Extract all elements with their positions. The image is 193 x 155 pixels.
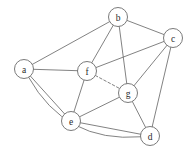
graph-edge-a-e (30, 76, 64, 114)
graph-node-label-d: d (148, 132, 153, 142)
graph-node-e: e (62, 112, 81, 131)
graph-node-f: f (78, 62, 97, 81)
graph-edge-c-f (96, 41, 164, 67)
graph-node-label-c: c (171, 34, 175, 44)
graph-node-g: g (119, 84, 138, 103)
graph-node-label-e: e (69, 117, 73, 127)
graph-edge-b-g (119, 26, 127, 83)
graph-edge-e-d (80, 123, 140, 134)
graph-edge-c-d (152, 47, 171, 127)
graph-edge-b-f (92, 25, 114, 63)
graph-figure: abcdefg (0, 0, 193, 155)
graph-edge-b-c (127, 20, 164, 34)
graph-edge-f-g (95, 75, 119, 88)
graph-node-c: c (164, 29, 183, 48)
graph-edge-e-g (80, 97, 120, 117)
graph-edge-e-f (74, 80, 84, 112)
graph-edge-a-b (32, 22, 109, 65)
graph-node-b: b (109, 8, 128, 27)
graph-canvas: abcdefg (0, 0, 193, 155)
graph-node-label-b: b (116, 13, 121, 23)
graph-node-a: a (15, 60, 34, 79)
graph-edge-a-f (34, 69, 78, 70)
graph-node-d: d (141, 127, 160, 146)
graph-node-label-g: g (126, 89, 131, 99)
graph-edge-g-d (132, 101, 145, 127)
edge-layer (29, 20, 171, 137)
